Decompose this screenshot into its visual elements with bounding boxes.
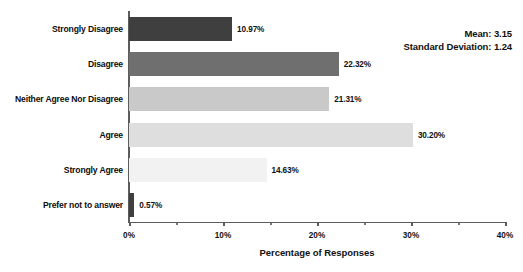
- x-axis-tick: [505, 222, 507, 226]
- bar-value-label: 14.63%: [272, 166, 299, 175]
- category-label: Disagree: [0, 59, 123, 69]
- bar-value-label: 0.57%: [139, 201, 162, 210]
- category-label: Neither Agree Nor Disagree: [0, 94, 123, 104]
- plot-area: 10.97%22.32%21.31%30.20%14.63%0.57%0%10%…: [129, 11, 505, 223]
- survey-bar-chart: Mean: 3.15 Standard Deviation: 1.24 Stro…: [0, 0, 523, 272]
- category-label: Strongly Disagree: [0, 24, 123, 34]
- bar-value-label: 10.97%: [237, 24, 264, 33]
- bar-value-label: 21.31%: [334, 95, 361, 104]
- x-axis-tick: [129, 222, 131, 226]
- x-axis-minor-tick: [458, 223, 460, 226]
- x-axis-title: Percentage of Responses: [129, 247, 505, 258]
- category-axis-labels: Strongly DisagreeDisagreeNeither Agree N…: [0, 11, 123, 223]
- bar: [129, 193, 134, 217]
- x-axis-tick-label: 10%: [215, 231, 231, 240]
- x-axis-tick-label: 0%: [123, 231, 135, 240]
- bar-value-label: 22.32%: [344, 60, 371, 69]
- y-axis-line: [128, 11, 130, 223]
- category-label: Prefer not to answer: [0, 200, 123, 210]
- x-axis-tick-label: 40%: [497, 231, 513, 240]
- bar: [129, 17, 232, 41]
- bar: [129, 158, 267, 182]
- bar: [129, 87, 329, 111]
- x-axis-minor-tick: [364, 223, 366, 226]
- bar: [129, 52, 339, 76]
- bar: [129, 123, 413, 147]
- x-axis-tick: [411, 222, 413, 226]
- x-axis-minor-tick: [270, 223, 272, 226]
- x-axis-minor-tick: [176, 223, 178, 226]
- x-axis-tick-label: 20%: [309, 231, 325, 240]
- category-label: Strongly Agree: [0, 165, 123, 175]
- category-label: Agree: [0, 130, 123, 140]
- bar-value-label: 30.20%: [418, 130, 445, 139]
- x-axis-tick: [223, 222, 225, 226]
- x-axis-tick: [317, 222, 319, 226]
- x-axis-tick-label: 30%: [403, 231, 419, 240]
